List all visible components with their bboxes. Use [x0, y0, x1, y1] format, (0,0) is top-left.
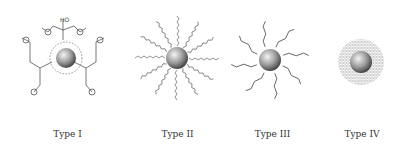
panel-type-4: Type IV [322, 0, 402, 149]
type-4-label: Type IV [322, 129, 402, 139]
type-1-label: Type I [20, 129, 115, 139]
panel-type-2: Type II [130, 0, 225, 149]
type-3-label: Type III [225, 129, 320, 139]
panel-type-3: Type III [225, 0, 320, 149]
panel-type-1: Type I [20, 0, 115, 149]
type-2-label: Type II [130, 129, 225, 139]
